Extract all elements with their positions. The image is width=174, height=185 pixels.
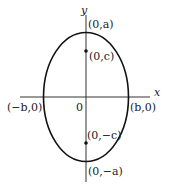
right-covertex-label: (b,0): [130, 101, 156, 114]
upper-focus-label: (0,c): [89, 50, 114, 63]
left-covertex-label: (−b,0): [7, 101, 42, 114]
bottom-vertex-label: (0,−a): [88, 165, 123, 178]
x-axis-label: x: [154, 86, 161, 99]
origin-label: 0: [76, 101, 83, 114]
ellipse-diagram: y x 0 (0,a) (0,c) (−b,0) (b,0) (0,−c) (0…: [0, 0, 174, 185]
upper-focus-point: [84, 49, 88, 53]
top-vertex-label: (0,a): [88, 18, 114, 31]
y-axis-label: y: [80, 4, 88, 17]
lower-focus-label: (0,−c): [87, 129, 121, 142]
